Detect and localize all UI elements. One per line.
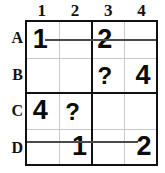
grid-row-c: 4 ?	[27, 93, 156, 129]
grid-cell-d1[interactable]	[27, 129, 59, 165]
cell-value-c1: 4	[33, 97, 48, 124]
grid-cell-d3[interactable]	[92, 129, 124, 165]
row-a-connector-line	[45, 39, 156, 41]
column-header-4: 4	[125, 0, 158, 20]
cell-value-b4: 4	[136, 62, 151, 89]
row-header-d: D	[0, 130, 25, 167]
grid-cell-b3[interactable]: ?	[92, 58, 124, 94]
grid-body: 1 2 ?	[25, 20, 158, 166]
cell-value-d2: 1	[72, 133, 87, 160]
grid-inner: 1 2 ?	[27, 22, 156, 164]
row-header-a: A	[0, 20, 25, 57]
grid-cell-b2[interactable]	[59, 58, 91, 94]
row-header-c: C	[0, 93, 25, 130]
column-header-1: 1	[25, 0, 58, 20]
puzzle-grid-figure: 1 2 3 4 A B C D 1	[0, 0, 165, 173]
row-header-column: A B C D	[0, 20, 25, 166]
grid-row-d: 1 2	[27, 129, 156, 165]
cell-value-c2: ?	[65, 100, 79, 124]
column-header-3: 3	[92, 0, 125, 20]
grid-cell-c1[interactable]: 4	[27, 93, 59, 129]
grid-cell-b1[interactable]	[27, 58, 59, 94]
row-d-connector-line	[27, 141, 138, 143]
grid-cell-d4[interactable]: 2	[124, 129, 156, 165]
grid-cell-d2[interactable]: 1	[59, 129, 91, 165]
grid-cell-c4[interactable]	[124, 93, 156, 129]
grid-cell-c2[interactable]: ?	[59, 93, 91, 129]
row-header-b: B	[0, 57, 25, 94]
cell-value-d4: 2	[137, 133, 152, 160]
cell-value-b3: ?	[98, 64, 112, 88]
grid-cell-c3[interactable]	[92, 93, 124, 129]
column-header-2: 2	[58, 0, 91, 20]
grid-cell-b4[interactable]: 4	[124, 58, 156, 94]
column-header-row: 1 2 3 4	[25, 0, 158, 20]
grid-row-b: ? 4	[27, 58, 156, 94]
